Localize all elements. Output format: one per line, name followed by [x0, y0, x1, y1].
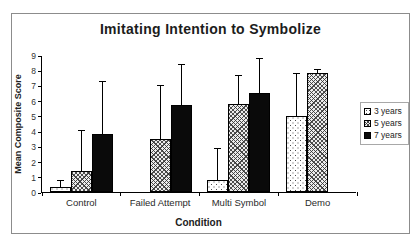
error-bar-3-years-demo	[296, 73, 297, 116]
x-tick-mark-4	[357, 192, 358, 196]
error-cap-5-years-demo	[314, 69, 321, 70]
error-cap-5-years-control	[78, 130, 85, 131]
bar-7-years-failed-attempt	[171, 105, 192, 192]
y-axis-label: Mean Composite Score	[13, 59, 25, 189]
error-bar-7-years-multi-symbol	[259, 58, 260, 93]
y-tick-mark-4	[38, 132, 41, 133]
bar-5-years-failed-attempt	[150, 139, 171, 192]
y-tick-label-7: 7	[22, 82, 36, 90]
y-tick-label-2: 2	[22, 159, 36, 167]
plot-area: 0123456789ControlFailed AttemptMulti Sym…	[41, 56, 356, 193]
error-cap-5-years-multi-symbol	[235, 75, 242, 76]
error-bar-3-years-control	[60, 180, 61, 188]
y-tick-mark-1	[38, 177, 41, 178]
error-cap-7-years-multi-symbol	[256, 58, 263, 59]
legend-label-5-years: 5 years	[374, 118, 402, 128]
bar-7-years-multi-symbol	[249, 93, 270, 192]
bar-5-years-multi-symbol	[228, 104, 249, 192]
x-tick-mark-1	[120, 192, 121, 196]
bar-5-years-demo	[307, 73, 328, 192]
y-tick-mark-7	[38, 86, 41, 87]
y-tick-mark-9	[38, 56, 41, 57]
y-tick-label-6: 6	[22, 98, 36, 106]
y-tick-label-5: 5	[22, 113, 36, 121]
error-bar-5-years-control	[81, 130, 82, 171]
category-label-failed-attempt: Failed Attempt	[121, 197, 200, 208]
legend-swatch-5-years	[364, 120, 371, 127]
bar-3-years-control	[50, 187, 71, 192]
x-axis-label: Condition	[41, 217, 356, 228]
error-bar-5-years-failed-attempt	[160, 85, 161, 138]
y-tick-label-9: 9	[22, 52, 36, 60]
error-cap-3-years-control	[57, 180, 64, 181]
y-tick-mark-6	[38, 101, 41, 102]
legend-item-5-years: 5 years	[364, 118, 405, 128]
error-bar-7-years-failed-attempt	[181, 64, 182, 105]
category-label-multi-symbol: Multi Symbol	[200, 197, 279, 208]
error-bar-5-years-multi-symbol	[238, 75, 239, 104]
error-cap-7-years-control	[99, 81, 106, 82]
y-tick-label-0: 0	[22, 189, 36, 197]
legend-label-7-years: 7 years	[374, 130, 402, 140]
legend-label-3-years: 3 years	[374, 106, 402, 116]
x-tick-mark-3	[278, 192, 279, 196]
error-cap-7-years-failed-attempt	[178, 64, 185, 65]
y-tick-mark-5	[38, 116, 41, 117]
legend: 3 years5 years7 years	[360, 102, 409, 145]
y-tick-label-4: 4	[22, 128, 36, 136]
figure-frame: Imitating Intention to Symbolize Mean Co…	[11, 13, 410, 234]
error-bar-7-years-control	[102, 81, 103, 134]
y-tick-label-8: 8	[22, 67, 36, 75]
chart-title: Imitating Intention to Symbolize	[12, 21, 409, 37]
error-cap-3-years-demo	[293, 73, 300, 74]
error-bar-3-years-multi-symbol	[217, 148, 218, 180]
legend-item-3-years: 3 years	[364, 106, 405, 116]
bar-3-years-multi-symbol	[207, 180, 228, 192]
x-tick-mark-0	[42, 192, 43, 196]
y-tick-mark-8	[38, 71, 41, 72]
bar-5-years-control	[71, 171, 92, 192]
error-cap-5-years-failed-attempt	[157, 85, 164, 86]
bar-7-years-control	[92, 134, 113, 192]
legend-swatch-3-years	[364, 108, 371, 115]
legend-swatch-7-years	[364, 132, 371, 139]
y-tick-mark-3	[38, 147, 41, 148]
legend-item-7-years: 7 years	[364, 130, 405, 140]
x-tick-mark-2	[199, 192, 200, 196]
category-label-demo: Demo	[278, 197, 357, 208]
y-tick-label-3: 3	[22, 143, 36, 151]
y-tick-mark-2	[38, 162, 41, 163]
bar-3-years-demo	[286, 116, 307, 192]
category-label-control: Control	[42, 197, 121, 208]
y-tick-label-1: 1	[22, 174, 36, 182]
error-cap-3-years-multi-symbol	[214, 148, 221, 149]
